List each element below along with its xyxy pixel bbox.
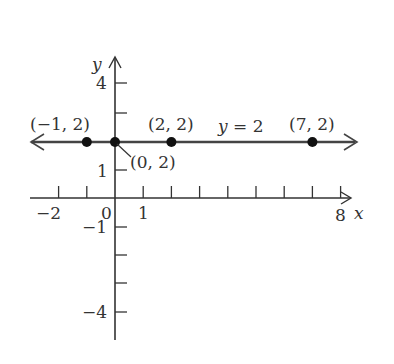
graph-figure: −2 0 1 8 x 4 1 −1 −4 y [0, 0, 394, 364]
x-tick-label-1: 1 [138, 203, 149, 223]
x-ticks [59, 186, 341, 198]
x-tick-label-8: 8 [335, 205, 346, 225]
y-axis: 4 1 −1 −4 y [82, 54, 127, 340]
y-tick-label-4: 4 [96, 73, 107, 93]
y-tick-label-neg4: −4 [82, 302, 107, 322]
point-neg1-2 [82, 137, 92, 147]
point-label-2-2: (2, 2) [148, 114, 194, 134]
point-label-neg1-2: (−1, 2) [30, 114, 90, 134]
point-label-0-2: (0, 2) [130, 152, 176, 172]
x-axis-label: x [354, 203, 364, 223]
point-2-2 [166, 137, 176, 147]
leader-line [117, 144, 131, 157]
y-tick-label-1: 1 [97, 161, 108, 181]
line-label: y = 2 [217, 116, 263, 136]
y-tick-label-neg1: −1 [82, 217, 107, 237]
x-tick-label-neg2: −2 [36, 203, 61, 223]
point-label-7-2: (7, 2) [289, 114, 335, 134]
point-7-2 [307, 137, 317, 147]
coordinate-plane: −2 0 1 8 x 4 1 −1 −4 y [0, 0, 394, 364]
y-axis-label: y [91, 54, 102, 74]
x-axis: −2 0 1 8 x [30, 186, 364, 225]
